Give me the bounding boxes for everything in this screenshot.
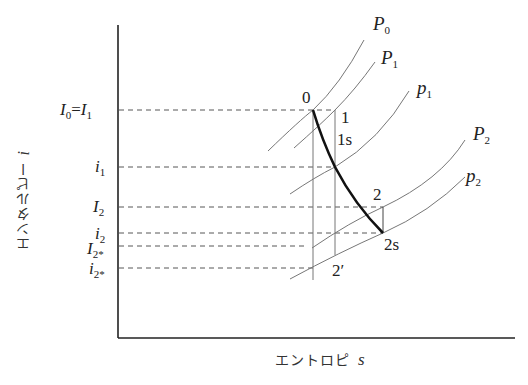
point-label-0: 0 — [302, 89, 311, 106]
label-P0: P0 — [373, 14, 390, 36]
point-label-2: 2 — [373, 186, 382, 203]
label-I2: I2 — [93, 198, 104, 218]
label-I0-eq-I1: I0=I1 — [60, 101, 92, 121]
label-i1: i1 — [95, 158, 105, 178]
point-label-1: 1 — [341, 109, 350, 126]
point-label-1s: 1s — [337, 131, 352, 148]
label-p2: p2 — [466, 166, 481, 188]
point-label-2prime: 2′ — [332, 262, 344, 279]
x-axis-label: エントロピs — [275, 349, 366, 370]
y-axis-label: エンタルピー i — [14, 150, 36, 251]
label-p1: p1 — [417, 78, 432, 100]
pressure-curves — [268, 40, 465, 279]
label-P2: P2 — [473, 124, 490, 146]
point-label-2s: 2s — [384, 236, 399, 253]
expansion-line — [313, 110, 383, 233]
label-i2star: i2* — [89, 260, 105, 280]
is-diagram-canvas — [0, 0, 528, 385]
label-I2star: I2* — [87, 240, 104, 260]
label-P1: P1 — [381, 48, 398, 70]
